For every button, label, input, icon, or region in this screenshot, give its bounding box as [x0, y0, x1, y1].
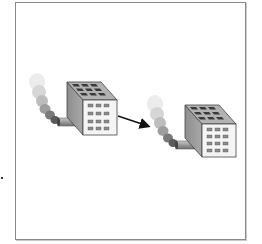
smoke-plume-icon [29, 73, 60, 124]
smoke-plume-icon [147, 95, 178, 147]
factory-1 [29, 73, 117, 135]
factory-2 [147, 95, 236, 157]
arrow-connector [118, 116, 148, 126]
diagram-canvas [0, 0, 262, 244]
